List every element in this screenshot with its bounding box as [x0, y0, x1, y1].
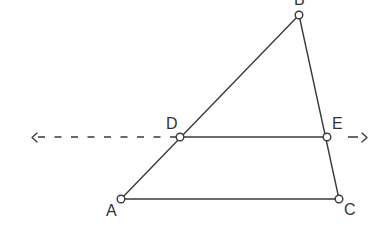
- point-C: [335, 195, 343, 203]
- point-A: [117, 195, 125, 203]
- segment-BC: [299, 15, 339, 199]
- point-D: [176, 133, 184, 141]
- right-arrow-icon: [362, 133, 367, 142]
- label-A: A: [106, 202, 117, 219]
- left-arrow-icon: [32, 133, 37, 142]
- point-E: [323, 133, 331, 141]
- point-B: [295, 11, 303, 19]
- label-C: C: [344, 201, 356, 218]
- segment-AB: [121, 15, 299, 199]
- triangle-diagram: A B C D E: [0, 0, 391, 230]
- label-D: D: [166, 115, 178, 132]
- label-E: E: [332, 115, 343, 132]
- label-B: B: [294, 0, 305, 8]
